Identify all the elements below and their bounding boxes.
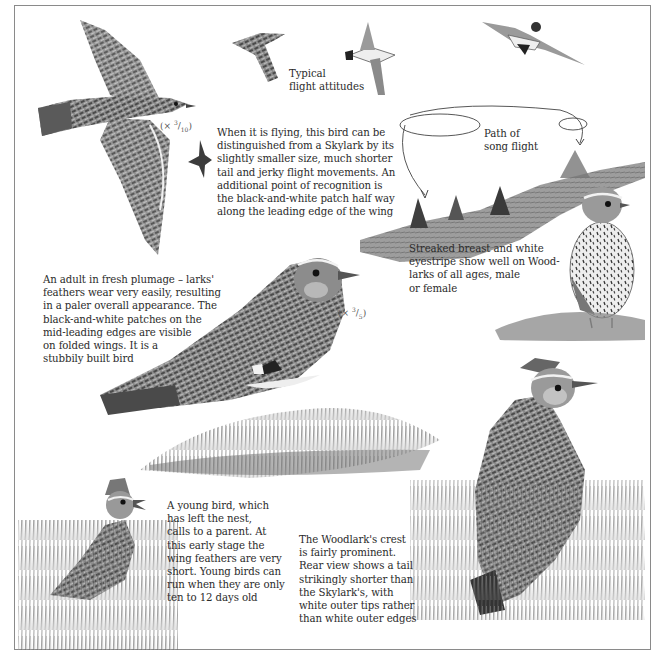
small-flying-silhouette xyxy=(188,140,212,178)
caption-crest: The Woodlark's crest is fairly prominent… xyxy=(299,533,459,625)
scale-suffix: ) xyxy=(188,121,192,131)
label-song-flight: Path of song flight xyxy=(484,127,538,153)
label-flight-attitudes: Typical flight attitudes xyxy=(289,67,364,93)
scale-suffix: ) xyxy=(363,308,367,318)
caption-breast: Streaked breast and white eyestripe show… xyxy=(409,242,589,295)
scale-adult: (× 3/5) xyxy=(338,306,366,320)
scale-flying: (× 3/10) xyxy=(160,119,192,133)
caption-young: A young bird, which has left the nest, c… xyxy=(167,499,307,605)
flying-woodlark-illustration xyxy=(38,20,196,255)
scale-num: 3 xyxy=(352,306,356,313)
scale-prefix: (× xyxy=(160,121,174,131)
young-woodlark-illustration xyxy=(18,478,178,650)
flight-attitude-birds xyxy=(232,22,585,95)
scale-prefix: (× xyxy=(338,308,352,318)
scale-num: 3 xyxy=(174,119,178,126)
caption-flying: When it is flying, this bird can be dist… xyxy=(217,126,407,218)
caption-adult: An adult in fresh plumage – larks' feath… xyxy=(43,273,263,365)
